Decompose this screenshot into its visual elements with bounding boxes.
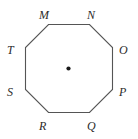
center-dot: [66, 66, 70, 70]
vertex-label-t: T: [7, 44, 14, 56]
vertex-label-p: P: [119, 86, 126, 98]
vertex-label-r: R: [39, 120, 46, 132]
octagon-diagram: [0, 0, 138, 139]
vertex-label-q: Q: [87, 120, 96, 132]
vertex-label-s: S: [7, 86, 13, 98]
vertex-label-o: O: [119, 44, 128, 56]
vertex-label-m: M: [39, 9, 49, 21]
vertex-label-n: N: [87, 9, 95, 21]
octagon-figure: M N O P Q R S T: [0, 0, 138, 139]
